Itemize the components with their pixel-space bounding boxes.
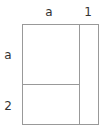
vertical-divider	[79, 24, 80, 125]
top-label-a: a	[45, 6, 52, 18]
top-label-1: 1	[84, 6, 92, 18]
horizontal-divider	[22, 84, 80, 85]
outer-rectangle	[22, 24, 99, 125]
left-label-a: a	[4, 49, 11, 61]
left-label-2: 2	[4, 100, 12, 112]
